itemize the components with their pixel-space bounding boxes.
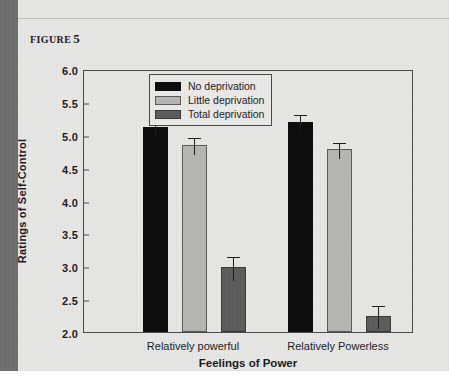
error-bar-stem bbox=[194, 138, 195, 155]
error-bar-cap bbox=[188, 138, 201, 139]
legend-item: Little deprivation bbox=[155, 93, 264, 107]
y-axis-tick-label: 4.5 bbox=[62, 164, 78, 176]
error-bar-cap bbox=[372, 306, 385, 307]
y-axis-tick-label: 2.0 bbox=[62, 328, 78, 340]
y-axis-tick-mark bbox=[84, 202, 89, 203]
figure-page: FIGURE5 Ratings of Self-Control 2.02.53.… bbox=[0, 0, 449, 389]
bar bbox=[327, 149, 352, 332]
y-axis-title: Ratings of Self-Control bbox=[16, 139, 28, 263]
error-bar-stem bbox=[233, 257, 234, 281]
y-axis-tick-label: 2.5 bbox=[62, 295, 78, 307]
error-bar-cap bbox=[294, 115, 307, 116]
plot-frame: 2.02.53.03.54.04.55.05.56.0 No deprivati… bbox=[83, 70, 413, 333]
y-axis-tick-label: 5.0 bbox=[62, 131, 78, 143]
error-bar-stem bbox=[378, 306, 379, 328]
y-axis-tick-label: 3.0 bbox=[62, 262, 78, 274]
legend-label: Little deprivation bbox=[188, 94, 264, 106]
y-axis-tick-mark bbox=[84, 301, 89, 302]
x-axis-group-label: Relatively powerful bbox=[147, 340, 239, 352]
bar bbox=[182, 145, 207, 332]
bar bbox=[288, 122, 313, 332]
legend-item: No deprivation bbox=[155, 79, 264, 93]
legend-label: No deprivation bbox=[188, 80, 256, 92]
y-axis-tick-mark bbox=[84, 169, 89, 170]
legend-swatch-icon bbox=[155, 82, 181, 91]
y-axis-tick-label: 3.5 bbox=[62, 229, 78, 241]
bar bbox=[143, 127, 168, 332]
error-bar-stem bbox=[339, 143, 340, 159]
y-axis-tick-mark bbox=[84, 103, 89, 104]
error-bar-cap bbox=[227, 257, 240, 258]
y-axis-tick-label: 4.0 bbox=[62, 197, 78, 209]
figure-block: FIGURE5 Ratings of Self-Control 2.02.53.… bbox=[0, 0, 449, 371]
legend-item: Total deprivation bbox=[155, 107, 264, 121]
y-axis-tick-label: 6.0 bbox=[62, 65, 78, 77]
figure-caption: FIGURE5 bbox=[30, 31, 80, 47]
y-axis-tick-label: 5.5 bbox=[62, 98, 78, 110]
x-axis-group-label: Relatively Powerless bbox=[287, 340, 388, 352]
legend-label: Total deprivation bbox=[188, 108, 264, 120]
error-bar-stem bbox=[300, 115, 301, 132]
figure-caption-prefix: FIGURE bbox=[30, 34, 71, 45]
error-bar-cap bbox=[333, 143, 346, 144]
top-hairline bbox=[18, 18, 449, 19]
legend-swatch-icon bbox=[155, 110, 181, 119]
y-axis-tick-mark bbox=[84, 235, 89, 236]
y-axis-tick-mark bbox=[84, 268, 89, 269]
figure-caption-number: 5 bbox=[73, 31, 80, 46]
chart-legend: No deprivationLittle deprivationTotal de… bbox=[149, 74, 272, 126]
y-axis-tick-mark bbox=[84, 136, 89, 137]
x-axis-title: Feelings of Power bbox=[199, 357, 297, 369]
legend-swatch-icon bbox=[155, 96, 181, 105]
